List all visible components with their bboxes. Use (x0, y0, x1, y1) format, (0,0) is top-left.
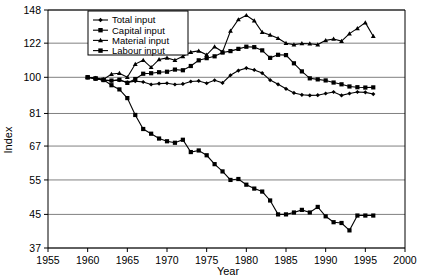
data-point (363, 213, 367, 217)
data-point (363, 85, 367, 89)
x-tick-label: 2000 (393, 254, 417, 266)
x-tick-label: 1955 (36, 254, 60, 266)
data-point (165, 55, 170, 59)
y-axis-ticks: 3745556781100122148 (23, 4, 48, 254)
data-point (268, 198, 272, 202)
data-point (355, 213, 359, 217)
data-point (133, 77, 137, 81)
data-point (205, 153, 209, 157)
data-point (133, 113, 137, 117)
data-point (300, 69, 304, 73)
y-tick-label: 67 (29, 140, 41, 152)
data-point (189, 79, 193, 83)
data-point (197, 148, 201, 152)
data-point (371, 85, 375, 89)
data-point (252, 45, 256, 49)
data-point (165, 70, 169, 74)
data-point (189, 150, 193, 154)
data-point (316, 93, 320, 97)
x-tick-label: 1970 (155, 254, 179, 266)
data-point (205, 81, 209, 85)
data-point (363, 20, 368, 24)
data-point (355, 90, 359, 94)
data-point (300, 208, 304, 212)
data-point (109, 78, 113, 82)
data-point (252, 68, 256, 72)
data-point (331, 37, 336, 41)
chart-container: 1955196019651970197519801985199019952000… (0, 0, 423, 279)
x-tick-label: 1975 (195, 254, 219, 266)
x-axis-title: Year (217, 265, 240, 277)
data-point (181, 82, 185, 86)
data-point (347, 91, 351, 95)
legend-marker-square-icon (98, 48, 102, 52)
data-point (284, 53, 288, 57)
data-point (213, 162, 217, 166)
y-tick-label: 55 (29, 174, 41, 186)
legend-label: Labour input (112, 45, 165, 56)
data-point (260, 189, 264, 193)
data-point (308, 76, 312, 80)
data-point (197, 58, 201, 62)
y-tick-label: 45 (29, 208, 41, 220)
data-point (284, 212, 288, 216)
data-point (189, 64, 193, 68)
data-point (101, 78, 105, 82)
series-line (88, 77, 374, 230)
data-point (332, 80, 336, 84)
data-point (371, 92, 375, 96)
x-axis-ticks: 1955196019651970197519801985199019952000 (36, 248, 417, 266)
data-point (205, 56, 209, 60)
data-point (212, 44, 217, 48)
data-point (339, 82, 343, 86)
data-point (292, 61, 296, 65)
data-point (173, 67, 177, 71)
data-point (157, 82, 161, 86)
data-point (149, 82, 153, 86)
data-point (324, 214, 328, 218)
data-point (260, 48, 264, 52)
data-point (86, 75, 90, 79)
data-point (332, 220, 336, 224)
data-point (276, 82, 280, 86)
x-tick-label: 1990 (314, 254, 338, 266)
data-point (213, 78, 217, 82)
x-tick-label: 1965 (116, 254, 140, 266)
data-point (347, 31, 352, 35)
data-point (276, 53, 280, 57)
data-point (181, 138, 185, 142)
data-point (213, 54, 217, 58)
data-point (363, 90, 367, 94)
y-axis-title: Index (2, 126, 14, 153)
data-point (244, 66, 248, 70)
data-point (292, 91, 296, 95)
y-tick-label: 37 (29, 242, 41, 254)
data-point (316, 77, 320, 81)
data-point (355, 85, 359, 89)
data-point (181, 68, 185, 72)
data-point (339, 93, 343, 97)
data-point (339, 221, 343, 225)
series-labour-input (86, 75, 376, 232)
data-point (292, 210, 296, 214)
data-point (94, 76, 98, 80)
data-point (197, 79, 201, 83)
data-point (149, 132, 153, 136)
data-point (308, 210, 312, 214)
y-tick-label: 122 (23, 37, 41, 49)
data-point (268, 56, 272, 60)
data-point (236, 177, 240, 181)
y-tick-label: 148 (23, 4, 41, 16)
chart-legend: Total inputCapital inputMaterial inputLa… (88, 11, 188, 56)
data-point (125, 81, 129, 85)
data-point (347, 84, 351, 88)
data-point (149, 71, 153, 75)
data-point (165, 81, 169, 85)
legend-marker-square-icon (98, 28, 102, 32)
data-point (308, 93, 312, 97)
y-tick-label: 100 (23, 71, 41, 83)
data-point (236, 47, 240, 51)
y-tick-label: 81 (29, 107, 41, 119)
x-tick-label: 1985 (274, 254, 298, 266)
data-point (125, 96, 129, 100)
